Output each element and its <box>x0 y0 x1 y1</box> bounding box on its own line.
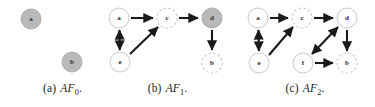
node-label-b: b <box>210 59 214 67</box>
caption-af1: (b)AF1. <box>100 82 235 97</box>
edge-e-to-c <box>269 27 293 55</box>
caption-label: AF <box>166 82 180 94</box>
node-label-d: d <box>345 14 349 22</box>
node-b[interactable]: b <box>202 53 222 73</box>
caption-index: (c) <box>285 82 298 94</box>
panel-af1: a c d e b (b <box>100 0 235 107</box>
node-label-e: e <box>118 58 121 66</box>
graph-af2: a c d e f <box>235 0 375 82</box>
node-a[interactable]: a <box>109 8 129 28</box>
node-label-a: a <box>29 15 33 23</box>
nodes-group-af2: a c d e f <box>248 8 357 73</box>
caption-label: AF <box>60 82 74 94</box>
caption-period: . <box>79 82 82 94</box>
node-f[interactable]: f <box>293 53 313 73</box>
edge-d-to-f-bidirectional <box>312 27 338 54</box>
node-a[interactable]: a <box>21 9 41 29</box>
caption-period: . <box>184 82 187 94</box>
node-label-e: e <box>257 59 260 67</box>
node-label-a: a <box>256 14 260 22</box>
edge-e-to-c <box>130 27 158 54</box>
nodes-group-af0: a b <box>21 9 82 72</box>
caption-label: AF <box>303 82 317 94</box>
node-b[interactable]: b <box>62 52 82 72</box>
node-d[interactable]: d <box>202 8 222 28</box>
node-label-c: c <box>300 14 303 22</box>
node-c[interactable]: c <box>157 8 177 28</box>
node-c[interactable]: c <box>292 8 312 28</box>
caption-period: . <box>321 82 324 94</box>
figure-container: a b (a)AF0. <box>0 0 375 107</box>
panel-af2: a c d e f <box>235 0 375 107</box>
node-label-b: b <box>345 59 349 67</box>
nodes-group-af1: a c d e b <box>109 8 222 73</box>
node-label-b: b <box>70 58 74 66</box>
node-a[interactable]: a <box>248 8 268 28</box>
node-label-a: a <box>117 14 121 22</box>
caption-index: (a) <box>43 82 56 94</box>
caption-index: (b) <box>148 82 162 94</box>
node-b[interactable]: b <box>337 53 357 73</box>
node-label-c: c <box>165 14 168 22</box>
node-e[interactable]: e <box>110 52 130 72</box>
caption-af2: (c)AF2. <box>235 82 375 97</box>
node-e[interactable]: e <box>249 53 269 73</box>
node-d[interactable]: d <box>337 8 357 28</box>
node-label-d: d <box>210 14 214 22</box>
graph-af1: a c d e b <box>100 0 235 82</box>
